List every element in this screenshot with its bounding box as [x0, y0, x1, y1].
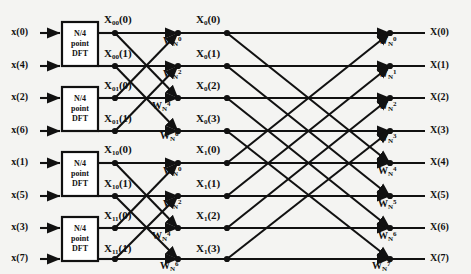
input-label-4: x(1)	[11, 157, 28, 167]
stage2-node-6	[175, 225, 181, 231]
stage3-twiddle-6: WN6	[378, 231, 397, 243]
stage2-label-1: X0(1)	[196, 48, 220, 61]
stage3-twiddle-2: WN2	[378, 101, 397, 113]
stage2-twiddle-5: WN2	[163, 199, 182, 211]
stage1-node-2	[112, 95, 118, 101]
stage1-label-6: X11(0)	[104, 210, 131, 223]
stage3-twiddle-4: WN4	[378, 166, 397, 178]
stage2-twiddle-7: WN6	[160, 261, 179, 273]
stage1-node-7	[112, 256, 118, 262]
stage2-twiddle-0: WN0	[163, 36, 182, 48]
input-label-1: x(4)	[11, 60, 28, 70]
stage2-twiddle-3: WN6	[160, 131, 179, 143]
stage1-label-5: X10(1)	[104, 178, 132, 191]
input-label-6: x(3)	[11, 222, 28, 232]
stage1-node-6	[112, 225, 118, 231]
stage3-node-4	[224, 160, 230, 166]
stage1-label-4: X10(0)	[104, 144, 132, 157]
output-label-0: X(0)	[430, 27, 449, 37]
stage1-label-7: X11(1)	[104, 243, 131, 256]
stage1-label-1: X00(1)	[104, 48, 132, 61]
stage2-node-2	[175, 95, 181, 101]
stage3-node-2	[224, 95, 230, 101]
output-label-5: X(5)	[430, 190, 449, 200]
input-label-5: x(5)	[11, 190, 28, 200]
output-label-1: X(1)	[430, 60, 449, 70]
stage1-node-4	[112, 160, 118, 166]
stage3-twiddle-3: WN3	[378, 133, 397, 145]
stage3-twiddle-5: WN5	[378, 199, 397, 211]
dft-block-2-text: N/4pointDFT	[60, 94, 100, 124]
stage2-twiddle-2: WN4	[152, 101, 171, 113]
stage1-node-5	[112, 193, 118, 199]
output-label-3: X(3)	[430, 125, 449, 135]
stage1-label-3: X01(1)	[104, 113, 132, 126]
stage1-node-0	[112, 30, 118, 36]
stage1-label-2: X01(0)	[104, 80, 132, 93]
stage1-node-1	[112, 63, 118, 69]
stage1-label-0: X00(0)	[104, 14, 132, 27]
stage2-twiddle-4: WN0	[163, 166, 182, 178]
stage3-node-3	[224, 128, 230, 134]
stage2-label-5: X1(1)	[196, 178, 220, 191]
stage2-label-7: X1(3)	[196, 243, 220, 256]
stage2-label-6: X1(2)	[196, 210, 220, 223]
stage3-twiddle-7: WN7	[372, 261, 391, 273]
stage2-label-4: X1(0)	[196, 144, 220, 157]
stage2-label-0: X0(0)	[196, 14, 220, 27]
stage1-node-3	[112, 128, 118, 134]
dft-block-4-text: N/4pointDFT	[60, 224, 100, 254]
dft-block-3-text: N/4pointDFT	[60, 159, 100, 189]
input-label-3: x(6)	[11, 125, 28, 135]
output-label-4: X(4)	[430, 157, 449, 167]
output-label-7: X(7)	[430, 253, 449, 263]
output-label-6: X(6)	[430, 222, 449, 232]
stage3-twiddle-0: WN0	[378, 36, 397, 48]
stage2-twiddle-6: WN4	[152, 231, 171, 243]
stage3-node-7	[224, 256, 230, 262]
output-label-2: X(2)	[430, 92, 449, 102]
input-label-2: x(2)	[11, 92, 28, 102]
stage3-node-1	[224, 63, 230, 69]
stage2-twiddle-1: WN2	[163, 69, 182, 81]
stage3-twiddle-1: WN1	[378, 69, 397, 81]
stage3-node-6	[224, 225, 230, 231]
stage3-node-5	[224, 193, 230, 199]
stage3-node-0	[224, 30, 230, 36]
stage2-label-2: X0(2)	[196, 80, 220, 93]
input-label-7: x(7)	[11, 253, 28, 263]
dft-block-1-text: N/4pointDFT	[60, 29, 100, 59]
stage2-label-3: X0(3)	[196, 113, 220, 126]
input-label-0: x(0)	[11, 27, 28, 37]
